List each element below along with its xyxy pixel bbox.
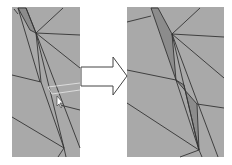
selection-highlight bbox=[48, 83, 80, 94]
right-arrow-icon bbox=[81, 57, 127, 95]
diagram-canvas bbox=[0, 0, 232, 165]
mouse-cursor-icon bbox=[57, 96, 63, 108]
before-mesh bbox=[12, 8, 80, 157]
after-mesh bbox=[127, 8, 224, 157]
